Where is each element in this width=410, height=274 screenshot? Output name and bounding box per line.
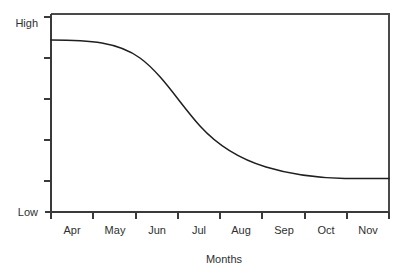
x-label-jun: Jun: [148, 224, 166, 236]
x-label-sep: Sep: [274, 224, 294, 236]
y-axis-low-label: Low: [18, 206, 38, 218]
x-label-may: May: [105, 224, 126, 236]
chart-container: High Low Apr May Jun Jul Aug Sep Oct Nov…: [0, 0, 410, 274]
x-label-aug: Aug: [231, 224, 251, 236]
y-axis-high-label: High: [15, 17, 38, 29]
x-label-oct: Oct: [317, 224, 334, 236]
x-axis-title: Months: [206, 253, 243, 265]
x-label-nov: Nov: [358, 224, 378, 236]
line-chart: High Low Apr May Jun Jul Aug Sep Oct Nov…: [0, 0, 410, 274]
x-label-apr: Apr: [63, 224, 80, 236]
x-label-jul: Jul: [192, 224, 206, 236]
